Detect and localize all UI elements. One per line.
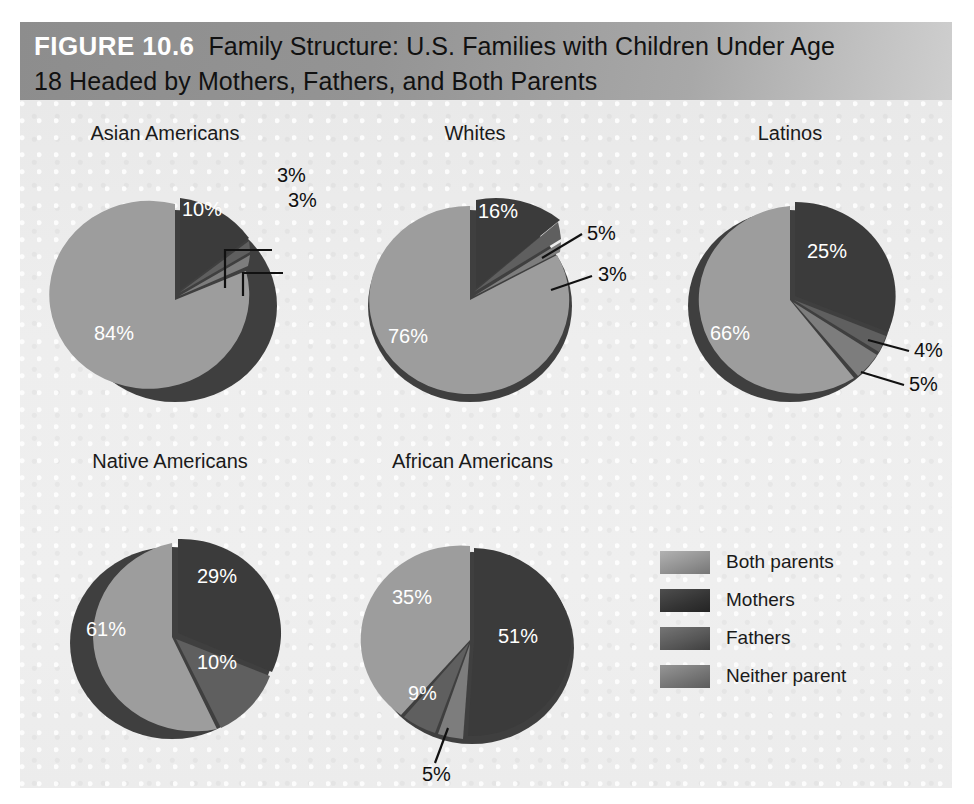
- slice-label-latinos-both-parents: 66%: [710, 322, 750, 345]
- slice-label-african-mothers: 51%: [498, 625, 538, 648]
- slice-label-asian-both-parents: 84%: [94, 322, 134, 345]
- legend-swatch-mothers: [660, 589, 710, 612]
- chart-title-latinos: Latinos: [625, 122, 955, 145]
- legend-item-neither-parent: Neither parent: [660, 657, 846, 695]
- slice-label-african-fathers: 9%: [408, 682, 437, 705]
- pie-svg-african-americans: [300, 440, 660, 785]
- callout-label-asian-fathers: 3%: [277, 164, 306, 187]
- slice-label-african-both-parents: 35%: [392, 586, 432, 609]
- pie-chart-asian-americans: Asian Americans 84% 10% 3% 3%: [0, 110, 330, 410]
- slice-label-asian-mothers: 10%: [182, 198, 222, 221]
- legend: Both parents Mothers Fathers Neither par…: [660, 543, 846, 695]
- legend-swatch-both-parents: [660, 551, 710, 574]
- legend-swatch-neither-parent: [660, 665, 710, 688]
- pie-svg-whites: [310, 110, 640, 410]
- chart-title-asian-americans: Asian Americans: [0, 122, 330, 145]
- pie-svg-native-americans: [0, 440, 340, 760]
- figure-page: FIGURE 10.6Family Structure: U.S. Famili…: [0, 0, 974, 804]
- figure-number: FIGURE 10.6: [34, 31, 194, 61]
- pie-svg-asian-americans: [0, 110, 330, 410]
- slice-label-latinos-mothers: 25%: [807, 240, 847, 263]
- figure-title-line-2: 18 Headed by Mothers, Fathers, and Both …: [34, 64, 938, 98]
- callout-label-latinos-fathers: 4%: [914, 339, 943, 362]
- callout-label-whites-neither: 3%: [598, 263, 627, 286]
- pie-chart-native-americans: Native Americans 61% 29% 10%: [0, 440, 340, 760]
- legend-item-fathers: Fathers: [660, 619, 846, 657]
- slice-label-whites-both-parents: 76%: [388, 325, 428, 348]
- legend-label-neither-parent: Neither parent: [726, 665, 846, 687]
- slice-label-native-fathers: 10%: [197, 651, 237, 674]
- chart-title-whites: Whites: [310, 122, 640, 145]
- figure-caption-band: FIGURE 10.6Family Structure: U.S. Famili…: [20, 22, 952, 102]
- legend-item-mothers: Mothers: [660, 581, 846, 619]
- slice-label-native-mothers: 29%: [197, 565, 237, 588]
- chart-title-african-americans: African Americans: [300, 450, 645, 473]
- callout-label-whites-fathers: 5%: [587, 222, 616, 245]
- callout-label-latinos-neither: 5%: [909, 373, 938, 396]
- legend-label-mothers: Mothers: [726, 589, 795, 611]
- legend-label-fathers: Fathers: [726, 627, 790, 649]
- figure-title-text-1: Family Structure: U.S. Families with Chi…: [208, 32, 835, 60]
- pie-chart-african-americans: African Americans 35% 51% 9% 5%: [300, 440, 660, 785]
- pie-chart-whites: Whites 76% 16% 5% 3%: [310, 110, 640, 410]
- chart-title-native-americans: Native Americans: [0, 450, 340, 473]
- slice-label-whites-mothers: 16%: [478, 200, 518, 223]
- pie-svg-latinos: [625, 110, 965, 410]
- slice-label-native-both-parents: 61%: [86, 618, 126, 641]
- legend-label-both-parents: Both parents: [726, 551, 834, 573]
- legend-swatch-fathers: [660, 627, 710, 650]
- callout-label-african-neither: 5%: [422, 763, 451, 786]
- pie-chart-latinos: Latinos 66% 25% 4% 5%: [625, 110, 965, 410]
- figure-title-line-1: FIGURE 10.6Family Structure: U.S. Famili…: [34, 28, 938, 64]
- legend-item-both-parents: Both parents: [660, 543, 846, 581]
